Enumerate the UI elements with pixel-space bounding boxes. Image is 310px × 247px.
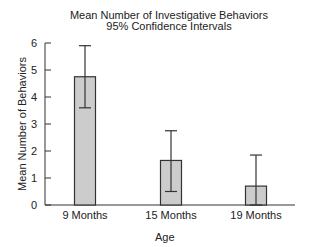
y-tick-label: 0 xyxy=(31,199,37,211)
x-tick-label: 9 Months xyxy=(62,209,108,221)
x-tick-label: 19 Months xyxy=(230,209,282,221)
y-tick-label: 3 xyxy=(31,118,37,130)
y-tick-label: 4 xyxy=(31,91,37,103)
y-tick-label: 2 xyxy=(31,145,37,157)
y-tick-label: 5 xyxy=(31,64,37,76)
x-tick-label: 15 Months xyxy=(145,209,197,221)
y-tick-label: 6 xyxy=(31,37,37,49)
y-tick-label: 1 xyxy=(31,172,37,184)
plot-area: 01234569 Months15 Months19 Months xyxy=(0,0,310,247)
